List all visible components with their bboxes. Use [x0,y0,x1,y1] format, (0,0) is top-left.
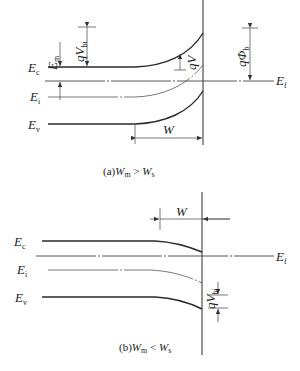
label-ei-a: Ei [29,89,41,106]
caption-b: (b)Wm < Ws [119,341,171,355]
ev-band-b [42,297,202,309]
ev-band-a [48,91,203,124]
label-qv-a: qV [184,54,199,71]
ei-band-b [48,270,202,283]
label-qphib-a: qΦb [234,47,251,67]
panel-b: Ec Ei Ev Ef W qVbi (b)Wm < Ws [13,192,287,355]
label-ei-b: Ei [16,262,28,279]
label-ef-a: Ef [275,73,287,90]
caption-a: (a)Wm > Ws [103,165,155,179]
label-ef-b: Ef [275,249,287,266]
panel-a: Ec Ei Ev Ef Em qVbi qV qΦb W (a)Wm > Ws [27,0,287,179]
label-qvbi-b: qVbi [203,288,220,309]
label-qvbi-a: qVbi [72,41,89,62]
label-ec-a: Ec [27,60,40,77]
band-diagram: Ec Ei Ev Ef Em qVbi qV qΦb W (a)Wm > Ws … [0,0,300,371]
label-em-a: Em [45,55,61,71]
label-w-b: W [176,204,188,219]
label-ev-a: Ev [27,117,40,134]
label-ev-b: Ev [14,290,27,307]
label-w-a: W [163,122,175,137]
ec-band-b [42,241,202,252]
label-ec-b: Ec [13,234,26,251]
